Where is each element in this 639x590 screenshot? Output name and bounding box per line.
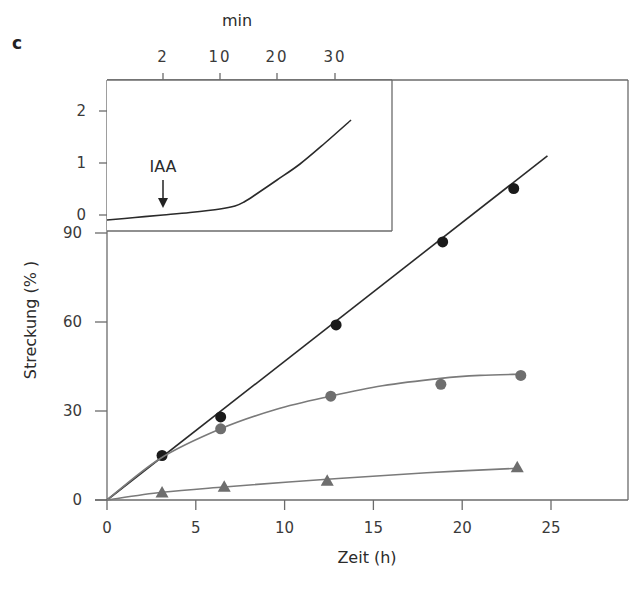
inset-background [107, 80, 392, 231]
inset-x-axis-ticks: 2102030 [157, 48, 346, 80]
y-tick-label: 60 [63, 313, 82, 331]
gray-circles-fit-line [107, 374, 521, 500]
gray-triangles-fit-line [107, 468, 517, 500]
data-point-circle [215, 411, 226, 422]
inset-y-tick-label: 0 [76, 206, 86, 224]
y-axis-ticks: 0306090 [63, 224, 107, 509]
data-point-circle [331, 319, 342, 330]
inset-x-tick-label: 30 [323, 48, 346, 66]
x-tick-label: 20 [453, 519, 472, 537]
panel-label: c [12, 33, 22, 53]
inset-y-tick-label: 1 [76, 154, 86, 172]
data-point-triangle [511, 461, 524, 473]
series-gray-triangles [107, 461, 524, 500]
x-tick-label: 0 [102, 519, 112, 537]
y-tick-label: 0 [72, 491, 82, 509]
data-point-circle [435, 379, 446, 390]
data-point-circle [508, 183, 519, 194]
inset-chart: 2102030 012 min IAA [76, 11, 392, 231]
figure-panel-c: c 0510152025 0306090 Zeit (h) Streckung … [0, 0, 639, 590]
y-tick-label: 90 [63, 224, 82, 242]
data-point-circle [325, 391, 336, 402]
inset-y-axis-ticks: 012 [76, 102, 107, 224]
x-tick-label: 5 [191, 519, 201, 537]
inset-x-axis-title: min [222, 11, 252, 30]
data-point-circle [437, 236, 448, 247]
x-tick-label: 25 [541, 519, 560, 537]
x-axis-title: Zeit (h) [337, 548, 396, 567]
inset-y-tick-label: 2 [76, 102, 86, 120]
data-point-circle [515, 370, 526, 381]
iaa-annotation-label: IAA [149, 157, 176, 176]
x-tick-label: 15 [364, 519, 383, 537]
x-axis-ticks: 0510152025 [102, 500, 560, 537]
data-point-circle [215, 423, 226, 434]
inset-x-tick-label: 2 [157, 48, 169, 66]
y-tick-label: 30 [63, 402, 82, 420]
x-tick-label: 10 [275, 519, 294, 537]
inset-x-tick-label: 20 [265, 48, 288, 66]
chart-canvas: c 0510152025 0306090 Zeit (h) Streckung … [0, 0, 639, 590]
inset-x-tick-label: 10 [208, 48, 231, 66]
y-axis-title: Streckung (% ) [21, 261, 40, 379]
